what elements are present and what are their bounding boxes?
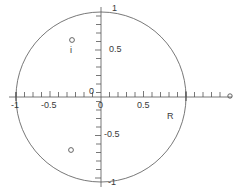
x-tick-label-0point5: 0.5 [137,101,150,110]
imaginary-axis-label: i [70,46,72,55]
real-axis-ticks [16,91,220,97]
x-tick-label-minus1: -1 [11,101,19,110]
complex-plane-figure: 1 0.5 0 -0.5 -1 -1 -0.5 0 0.5 i R [0,0,240,194]
y-tick-label-0point5: 0.5 [109,45,122,54]
y-tick-label-minus0point5: -0.5 [104,130,120,139]
y-tick-label-0: 0 [89,87,94,96]
data-point-marker [69,148,74,153]
x-tick-label-minus0point5: -0.5 [41,101,57,110]
y-tick-label-1: 1 [112,4,117,13]
axis-end-marker [228,94,232,98]
unit-circle-plot [0,0,240,194]
y-tick-label-minus1: -1 [108,178,116,187]
data-point-marker [70,38,75,43]
x-tick-label-0: 0 [98,101,103,110]
real-axis-label: R [167,112,174,121]
